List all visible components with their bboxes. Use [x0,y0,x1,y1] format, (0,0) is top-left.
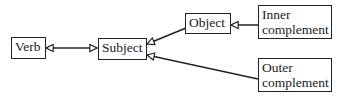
node-outer-line2: complement [262,75,328,90]
node-outer-complement: Outer complement [258,58,332,92]
edge-object-subject [147,28,186,44]
node-inner-line1: Inner [262,7,328,22]
node-inner-complement: Inner complement [258,5,332,39]
node-verb: Verb [11,37,46,59]
node-subject: Subject [98,38,147,60]
node-inner-line2: complement [262,22,328,37]
node-subject-label: Subject [102,40,143,55]
node-object: Object [185,13,231,34]
edge-outer-subject [147,55,258,79]
node-verb-label: Verb [15,39,41,54]
node-outer-line1: Outer [262,60,328,75]
node-object-label: Object [189,15,225,30]
